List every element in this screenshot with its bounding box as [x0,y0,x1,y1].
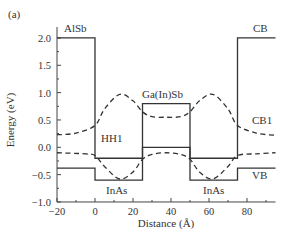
series-group [57,38,276,180]
x-tick-label: 0 [92,206,97,217]
y-tick-label: 1.5 [38,60,51,71]
y-tick-label: −1.0 [32,197,51,208]
y-tick-label: −0.5 [32,170,51,181]
y-tick-label: 1.0 [38,88,51,99]
label-inas-left: InAs [106,184,127,196]
series-cb1 [57,94,276,135]
axes: −200204060802.01.51.00.50.0−0.5−1.0 [32,27,276,217]
label-alsb: AlSb [64,22,87,34]
label-cb: CB [253,22,268,34]
label-inas-right: InAs [203,184,224,196]
panel-label: (a) [8,8,21,21]
label-gainsb: Ga(In)Sb [142,88,183,101]
y-tick-label: 2.0 [38,33,51,44]
label-cb1: CB1 [252,114,272,126]
x-tick-label: 20 [128,206,139,217]
x-tick-label: 40 [166,206,177,217]
band-diagram-chart: (a) −200204060802.01.51.00.50.0−0.5−1.0 … [0,0,289,248]
y-tick-label: 0.0 [38,142,51,153]
x-tick-label: 80 [242,206,253,217]
x-axis-label: Distance (Å) [138,217,195,230]
x-tick-label: −20 [49,206,65,217]
series-hh1 [57,153,276,179]
y-axis-label: Energy (eV) [4,92,17,147]
y-tick-label: 0.5 [38,115,51,126]
x-tick-label: 60 [204,206,215,217]
label-vb: VB [252,169,267,181]
label-hh1: HH1 [101,132,122,144]
